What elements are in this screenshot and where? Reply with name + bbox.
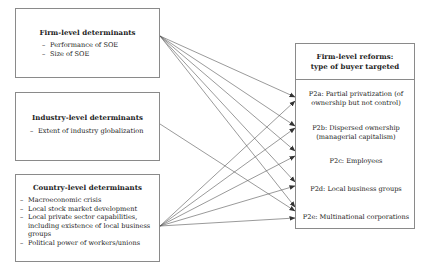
- list-item: Extent of industry globalization: [30, 127, 159, 136]
- option-p2d: P2d: Local business groups: [296, 185, 416, 194]
- option-line: ownership but not control): [296, 99, 416, 108]
- list-item: Local private sector capabilities, inclu…: [20, 213, 159, 239]
- box-title: Country-level determinants: [16, 183, 159, 192]
- reforms-title-line2: type of buyer targeted: [296, 62, 414, 72]
- box-title: Industry-level determinants: [16, 113, 159, 122]
- option-p2c: P2c: Employees: [296, 157, 416, 166]
- country-level-determinants-box: Country-level determinants Macroeconomic…: [15, 174, 160, 262]
- arrow-firm-p2c: [160, 36, 295, 151]
- box-title: Firm-level determinants: [16, 28, 159, 37]
- arrow-industry-p2e: [160, 124, 295, 211]
- option-line: (managerial capitalism): [296, 133, 416, 142]
- determinant-list: Extent of industry globalization: [30, 127, 159, 136]
- option-p2b: P2b: Dispersed ownership (managerial cap…: [296, 124, 416, 141]
- list-item: Political power of workers/unions: [20, 239, 159, 248]
- arrow-firm-p2b: [160, 36, 295, 126]
- option-line: P2e: Multinational corporations: [296, 213, 416, 222]
- option-p2e: P2e: Multinational corporations: [296, 213, 416, 222]
- firm-level-reforms-box: Firm-level reforms: type of buyer target…: [295, 43, 415, 229]
- firm-level-determinants-box: Firm-level determinants Performance of S…: [15, 8, 160, 78]
- arrow-country-p2d: [160, 186, 295, 226]
- list-item: Performance of SOE: [42, 41, 159, 50]
- reforms-title-line1: Firm-level reforms:: [296, 52, 414, 62]
- option-line: P2a: Partial privatization (of: [296, 90, 416, 99]
- list-item: Local stock market development: [20, 205, 159, 214]
- arrow-country-p2a: [160, 101, 295, 226]
- arrow-firm-p2a: [160, 36, 295, 97]
- determinant-list: Macroeconomic crisis Local stock market …: [20, 196, 159, 248]
- industry-level-determinants-box: Industry-level determinants Extent of in…: [15, 92, 160, 161]
- list-item: Size of SOE: [42, 50, 159, 59]
- arrow-country-p2e: [160, 218, 295, 226]
- arrow-country-p2c: [160, 156, 295, 226]
- determinant-list: Performance of SOE Size of SOE: [42, 41, 159, 58]
- arrow-firm-p2e: [160, 36, 295, 207]
- arrow-firm-p2d: [160, 36, 295, 182]
- list-item: Macroeconomic crisis: [20, 196, 159, 205]
- option-line: P2c: Employees: [296, 157, 416, 166]
- arrow-country-p2b: [160, 128, 295, 226]
- reforms-header: Firm-level reforms: type of buyer target…: [296, 44, 414, 80]
- option-line: P2d: Local business groups: [296, 185, 416, 194]
- option-p2a: P2a: Partial privatization (of ownership…: [296, 90, 416, 107]
- option-line: P2b: Dispersed ownership: [296, 124, 416, 133]
